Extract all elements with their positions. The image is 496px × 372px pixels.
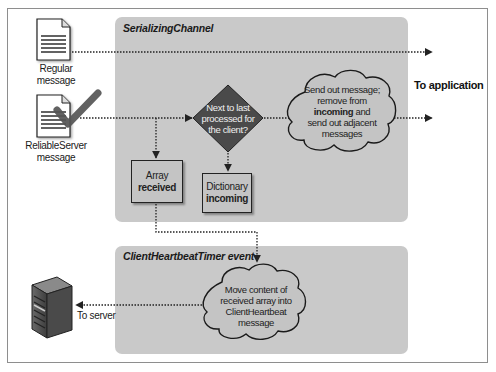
send-cloud-line3: incoming and [292, 106, 392, 117]
send-cloud-line1: Send out message; [292, 84, 392, 95]
server-icon [32, 277, 72, 338]
reliable-message-label: ReliableServer message [20, 140, 92, 164]
send-cloud-line3-rest: and [353, 106, 370, 117]
send-out-cloud-label: Send out message; remove from incoming a… [292, 84, 392, 139]
regular-message-label: Regular message [20, 63, 92, 87]
array-box-line2: received [138, 182, 176, 194]
move-cloud-line3: ClientHeartbeat [208, 306, 304, 317]
move-cloud-line2: received array into [208, 295, 304, 306]
array-box-line1: Array [146, 170, 168, 182]
move-content-cloud-label: Move content of received array into Clie… [208, 284, 304, 328]
move-cloud-line1: Move content of [208, 284, 304, 295]
dictionary-box-line1: Dictionary [206, 181, 247, 193]
send-cloud-line3-bold: incoming [314, 106, 353, 117]
to-server-label: To server [77, 310, 115, 322]
document-icon [37, 19, 70, 60]
document-checked-icon [37, 93, 98, 137]
dictionary-incoming-box: Dictionary incoming [202, 173, 252, 213]
decision-line2: processed for [198, 113, 258, 124]
send-cloud-line2: remove from [292, 95, 392, 106]
reliable-message-label-line1: ReliableServer [20, 140, 92, 152]
send-cloud-line5: messages [292, 128, 392, 139]
move-cloud-line4: message [208, 317, 304, 328]
to-application-label: To application [414, 79, 484, 91]
decision-line3: the client? [198, 124, 258, 135]
dictionary-box-line2: incoming [206, 193, 248, 205]
reliable-message-label-line2: message [20, 152, 92, 164]
send-cloud-line4: send out adjacent [292, 117, 392, 128]
decision-line1: Next to last [198, 102, 258, 113]
array-received-box: Array received [131, 160, 183, 203]
decision-label: Next to last processed for the client? [198, 102, 258, 135]
